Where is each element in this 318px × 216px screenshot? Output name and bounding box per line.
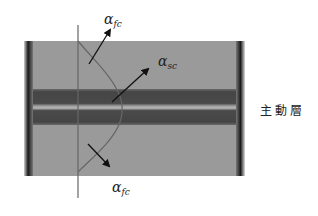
lower-cladding bbox=[27, 125, 242, 176]
subscript: sc bbox=[167, 61, 177, 71]
active-layer-label: 主動層 bbox=[260, 101, 305, 118]
waveguide-diagram: αfc αsc αfc 主動層 bbox=[0, 0, 318, 216]
subscript: fc bbox=[121, 187, 129, 197]
subscript: fc bbox=[113, 19, 121, 29]
label-alpha-fc-top: αfc bbox=[104, 12, 122, 29]
right-bar bbox=[236, 41, 245, 176]
label-alpha-sc: αsc bbox=[158, 54, 177, 71]
left-bar bbox=[24, 41, 33, 176]
active-region bbox=[27, 89, 242, 125]
label-alpha-fc-bottom: αfc bbox=[112, 180, 130, 197]
